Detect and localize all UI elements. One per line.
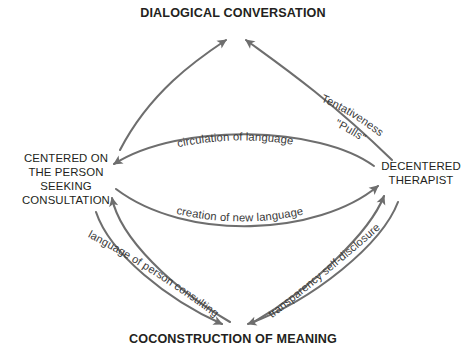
edge-label-language-of-person: language of person consulting — [87, 228, 222, 319]
edge-label-transparency: transparency self-disclosure — [266, 221, 382, 320]
edge-label-creation: creation of new language — [175, 204, 304, 224]
diagram-canvas: circulation of language creation of new … — [0, 0, 465, 358]
node-decentered-therapist: DECENTERED THERAPIST — [378, 160, 464, 188]
node-coconstruction-of-meaning: COCONSTRUCTION OF MEANING — [118, 332, 348, 347]
edge-label-circulation: circulation of language — [176, 130, 294, 149]
node-dialogical-conversation: DIALOGICAL CONVERSATION — [118, 6, 348, 21]
node-centered-on-person-seeking-consultation: CENTERED ON THE PERSON SEEKING CONSULTAT… — [2, 152, 130, 208]
arrow-left-to-top — [120, 40, 226, 150]
